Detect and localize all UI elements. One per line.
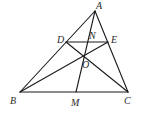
- label-B: B: [10, 95, 16, 106]
- label-O: O: [82, 59, 89, 70]
- label-E: E: [110, 34, 117, 45]
- geometry-diagram: A D N E O B M C: [0, 0, 145, 114]
- segment-CD: [66, 42, 128, 92]
- label-D: D: [56, 34, 65, 45]
- segment-AB: [20, 11, 95, 92]
- segment-AC: [95, 11, 128, 92]
- label-C: C: [124, 95, 131, 106]
- label-A: A: [95, 0, 103, 11]
- label-M: M: [70, 97, 80, 108]
- segments: [20, 11, 128, 92]
- label-N: N: [88, 30, 97, 41]
- segment-BE: [20, 42, 108, 92]
